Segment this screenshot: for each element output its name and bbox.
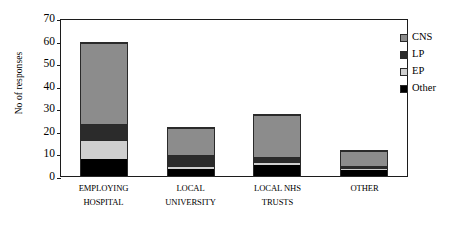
legend-item-label: EP	[412, 66, 424, 77]
bar-slot	[164, 20, 218, 176]
y-axis-tick-mark	[57, 88, 61, 89]
legend-swatch-cns	[400, 34, 408, 42]
y-axis-tick-label: 30	[26, 104, 55, 116]
stacked-bar	[341, 151, 387, 176]
legend-item-ep[interactable]: EP	[400, 63, 462, 80]
y-axis-tick-mark	[57, 20, 61, 21]
y-axis-tick-label: 60	[26, 36, 55, 48]
legend-item-label: Other	[412, 83, 436, 94]
y-axis-tick-mark	[57, 65, 61, 66]
y-axis-tick-label: 50	[26, 58, 55, 70]
bar-slot	[337, 20, 391, 176]
legend-item-other[interactable]: Other	[400, 80, 462, 97]
x-axis-label: OTHER	[338, 182, 392, 224]
y-axis-tick-label: 10	[26, 149, 55, 161]
y-axis-tick-labels: 706050403020100	[26, 19, 55, 177]
legend-item-label: CNS	[412, 32, 432, 43]
stacked-bar-chart: No of responses 706050403020100 EMPLOYIN…	[0, 0, 464, 227]
y-axis-tick-label: 40	[26, 81, 55, 93]
y-axis-tick-label: 20	[26, 126, 55, 138]
bar-segment-cns	[254, 115, 300, 157]
bar-segment-other	[81, 159, 127, 176]
x-axis-label-line: TRUSTS	[251, 196, 305, 210]
y-axis-tick-label: 70	[26, 13, 55, 25]
y-axis-tick-mark	[57, 43, 61, 44]
y-axis-tick-mark	[57, 110, 61, 111]
x-axis-category-labels: EMPLOYINGHOSPITALLOCALUNIVERSITYLOCAL NH…	[60, 182, 408, 224]
x-axis-label-line: OTHER	[338, 182, 392, 196]
legend-swatch-ep	[400, 68, 408, 76]
bar-segment-lp	[168, 155, 214, 166]
bar-segment-other	[254, 165, 300, 176]
y-axis-title: No of responses	[14, 33, 24, 133]
bar-slot	[250, 20, 304, 176]
x-axis-label: LOCAL NHSTRUSTS	[251, 182, 305, 224]
bar-segment-ep	[81, 140, 127, 159]
x-axis-label: EMPLOYINGHOSPITAL	[77, 182, 131, 224]
stacked-bar	[168, 128, 214, 177]
y-axis-tick-mark	[57, 178, 61, 179]
x-axis-label-line: HOSPITAL	[77, 196, 131, 210]
x-axis-label-line: LOCAL NHS	[251, 182, 305, 196]
x-axis-label-line: LOCAL	[164, 182, 218, 196]
stacked-bar	[254, 115, 300, 176]
bar-segment-other	[341, 170, 387, 176]
x-axis-label-line: UNIVERSITY	[164, 196, 218, 210]
bar-slot	[77, 20, 131, 176]
y-axis-tick-mark	[57, 155, 61, 156]
plot-area	[60, 19, 408, 177]
bar-segment-cns	[341, 151, 387, 166]
x-axis-label-line: EMPLOYING	[77, 182, 131, 196]
x-axis-label: LOCALUNIVERSITY	[164, 182, 218, 224]
y-axis-tick-label: 0	[26, 171, 55, 183]
y-axis-tick-mark	[57, 133, 61, 134]
bar-segment-lp	[81, 124, 127, 140]
bars-container	[61, 20, 407, 176]
legend-swatch-other	[400, 85, 408, 93]
chart-legend: CNSLPEPOther	[400, 29, 462, 97]
bar-segment-cns	[168, 128, 214, 155]
bar-segment-cns	[81, 43, 127, 124]
legend-item-lp[interactable]: LP	[400, 46, 462, 63]
stacked-bar	[81, 43, 127, 176]
legend-item-cns[interactable]: CNS	[400, 29, 462, 46]
bar-segment-other	[168, 169, 214, 176]
legend-item-label: LP	[412, 49, 424, 60]
legend-swatch-lp	[400, 51, 408, 59]
